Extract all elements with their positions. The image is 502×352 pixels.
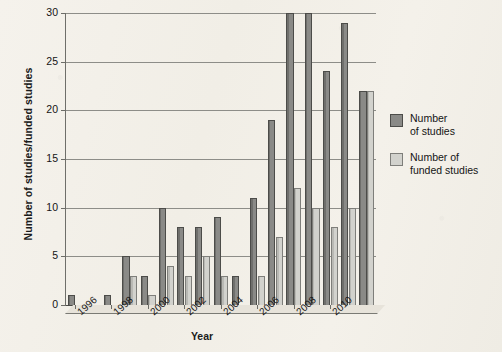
x-tick-mark-2008: [294, 305, 295, 309]
legend-swatch-icon-2: [390, 153, 403, 166]
y-tick-mark-15: [61, 159, 66, 160]
x-tick-mark-2000: [148, 305, 149, 309]
bar-2003-studies: [195, 227, 202, 305]
bar-2006-funded: [258, 276, 265, 305]
y-tick-label-15: 15: [32, 152, 58, 164]
y-tick-mark-20: [61, 110, 66, 111]
bar-2002-funded: [185, 276, 192, 305]
bar-2012-studies: [359, 91, 366, 305]
x-tick-mark-1998: [111, 305, 112, 309]
bar-2011-studies: [341, 23, 348, 305]
x-tick-mark-2004: [221, 305, 222, 309]
bar-2011-funded: [349, 208, 356, 305]
bar-2009-funded: [312, 208, 319, 305]
y-tick-mark-10: [61, 208, 66, 209]
y-tick-label-30: 30: [32, 6, 58, 18]
bar-2004-funded: [221, 276, 228, 305]
legend-item-1[interactable]: Numberof studies: [390, 112, 502, 138]
bar-2006-studies: [250, 198, 257, 305]
y-tick-mark-25: [61, 62, 66, 63]
bar-2010-funded: [331, 227, 338, 305]
y-tick-label-20: 20: [32, 103, 58, 115]
chart-legend: Numberof studiesNumber offunded studies: [390, 112, 502, 190]
x-tick-mark-2002: [184, 305, 185, 309]
y-tick-mark-30: [61, 13, 66, 14]
bar-2009-studies: [305, 13, 312, 305]
bar-chart: Number of studies/funded studies Year 05…: [0, 0, 502, 352]
bar-2007-studies: [268, 120, 275, 305]
bar-2008-funded: [294, 188, 301, 305]
bar-2004-studies: [214, 217, 221, 305]
y-tick-mark-0: [61, 305, 66, 306]
x-tick-mark-2006: [257, 305, 258, 309]
y-tick-label-10: 10: [32, 201, 58, 213]
bar-1998-studies: [104, 295, 111, 305]
gridline-30: [66, 13, 376, 14]
y-tick-label-0: 0: [32, 298, 58, 310]
bar-1996-studies: [68, 295, 75, 305]
bar-2001-studies: [159, 208, 166, 305]
x-axis-title: Year: [0, 330, 404, 342]
bar-2002-studies: [177, 227, 184, 305]
plot-area: 051015202530 199619982000200220042006200…: [66, 13, 376, 305]
legend-swatch-icon-1: [390, 114, 403, 127]
x-tick-mark-1996: [75, 305, 76, 309]
gridline-25: [66, 62, 376, 63]
y-tick-label-5: 5: [32, 249, 58, 261]
bar-2007-funded: [276, 237, 283, 305]
bar-2012-funded: [367, 91, 374, 305]
bar-2000-studies: [141, 276, 148, 305]
legend-item-2[interactable]: Number offunded studies: [390, 151, 502, 177]
bar-2010-studies: [323, 71, 330, 305]
bar-2008-studies: [286, 13, 293, 305]
legend-label-1: Numberof studies: [410, 112, 455, 138]
x-tick-mark-2010: [330, 305, 331, 309]
y-tick-mark-5: [61, 256, 66, 257]
y-tick-label-25: 25: [32, 55, 58, 67]
legend-label-2: Number offunded studies: [410, 151, 478, 177]
